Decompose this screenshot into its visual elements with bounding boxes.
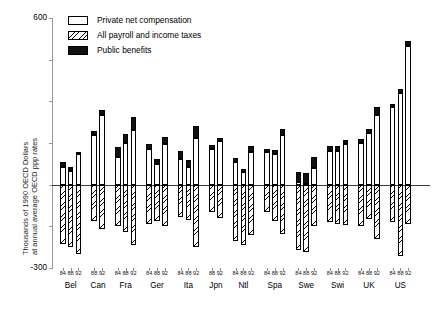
bar-fill-benefits — [358, 139, 364, 143]
bar-fill-benefits — [311, 157, 317, 168]
bar-segment-taxes — [186, 185, 192, 221]
bar-fill-compensation — [398, 93, 404, 185]
bar-fill-taxes — [76, 185, 82, 254]
bar-segment-taxes — [217, 185, 223, 218]
x-axis-year-label: 92 — [405, 271, 411, 277]
bar-fill-taxes — [311, 185, 317, 226]
bar-segment-benefits — [154, 159, 160, 164]
bar-fill-compensation — [280, 135, 286, 184]
bar-fill-benefits — [193, 126, 199, 138]
x-axis-year-label: 92 — [99, 271, 105, 277]
bar-fill-taxes — [91, 185, 97, 221]
bar-fill-benefits — [154, 159, 160, 164]
x-axis-year-label: 84 — [60, 271, 66, 277]
bar-fill-taxes — [123, 185, 129, 232]
x-axis-country-label: Swi — [331, 282, 344, 290]
bar-segment-taxes — [162, 185, 168, 227]
bar-fill-benefits — [272, 150, 278, 153]
bar-segment-compensation — [248, 152, 254, 185]
bar-segment-benefits — [374, 107, 380, 114]
bar-segment-compensation — [272, 154, 278, 185]
bar-segment-compensation — [241, 172, 247, 184]
legend-swatch-taxes-icon — [68, 31, 88, 40]
y-axis-title: Thousands of 1990 OECD Dollars at annual… — [0, 0, 34, 280]
bar-fill-compensation — [91, 135, 97, 184]
bar-fill-benefits — [303, 173, 309, 184]
bar-fill-benefits — [327, 146, 333, 151]
bar-segment-taxes — [248, 185, 254, 235]
bar-fill-compensation — [154, 164, 160, 185]
bar-fill-benefits — [146, 144, 152, 149]
bar-segment-benefits — [99, 110, 105, 116]
bar-segment-taxes — [374, 185, 380, 239]
bar-segment-taxes — [91, 185, 97, 221]
x-axis-year-label: 88 — [272, 271, 278, 277]
bar-segment-compensation — [358, 143, 364, 185]
bar-fill-benefits — [209, 145, 215, 149]
bar-fill-taxes — [264, 185, 270, 213]
bar-fill-taxes — [209, 185, 215, 213]
x-axis-year-label: 84 — [389, 271, 395, 277]
x-axis-year-label: 88 — [303, 271, 309, 277]
bar-segment-compensation — [186, 167, 192, 185]
x-axis-country-label: US — [395, 282, 406, 290]
bar-segment-taxes — [272, 185, 278, 221]
bar-segment-benefits — [327, 146, 333, 151]
bar-fill-compensation — [99, 115, 105, 184]
bar-segment-taxes — [280, 185, 286, 234]
bar-segment-benefits — [60, 162, 66, 167]
bar-fill-benefits — [115, 147, 121, 157]
bar-segment-compensation — [76, 154, 82, 185]
bar-segment-compensation — [193, 138, 199, 185]
bar-segment-compensation — [264, 152, 270, 184]
bar-segment-benefits — [123, 134, 129, 143]
legend-swatch-compensation-icon — [68, 16, 88, 25]
bar-segment-compensation — [123, 143, 129, 185]
bar-fill-taxes — [272, 185, 278, 221]
x-axis-year-label: 84 — [146, 271, 152, 277]
bar-fill-taxes — [296, 185, 302, 251]
bar-fill-benefits — [91, 131, 97, 135]
bar-segment-benefits — [272, 150, 278, 153]
bar-fill-taxes — [193, 185, 199, 248]
bar-fill-compensation — [311, 168, 317, 185]
x-axis-year-label: 92 — [217, 271, 223, 277]
bar-segment-compensation — [178, 159, 184, 185]
x-axis-year-label: 92 — [130, 271, 136, 277]
bar-fill-benefits — [186, 160, 192, 167]
x-axis-country-label: Bel — [65, 282, 77, 290]
x-axis-country-label: Ita — [184, 282, 193, 290]
bar-fill-compensation — [366, 133, 372, 185]
x-axis-country-label: Ger — [150, 282, 164, 290]
bar-fill-taxes — [68, 185, 74, 248]
bar-fill-compensation — [115, 157, 121, 185]
bar-segment-compensation — [68, 171, 74, 184]
bar-fill-benefits — [398, 89, 404, 93]
bar-fill-taxes — [186, 185, 192, 221]
bar-fill-benefits — [405, 41, 411, 45]
bar-segment-taxes — [123, 185, 129, 232]
bar-fill-taxes — [154, 185, 160, 222]
bar-fill-benefits — [76, 152, 82, 154]
bar-segment-taxes — [178, 185, 184, 218]
bar-fill-taxes — [241, 185, 247, 246]
bar-fill-compensation — [193, 138, 199, 185]
chart-container: Thousands of 1990 OECD Dollars at annual… — [0, 0, 438, 310]
bar-fill-taxes — [217, 185, 223, 218]
x-axis-year-label: 92 — [374, 271, 380, 277]
bar-segment-taxes — [154, 185, 160, 222]
bar-segment-taxes — [405, 185, 411, 224]
bar-fill-taxes — [374, 185, 380, 239]
bar-fill-taxes — [233, 185, 239, 242]
x-axis-year-label: 88 — [122, 271, 128, 277]
bar-segment-benefits — [264, 149, 270, 152]
bar-segment-compensation — [99, 115, 105, 184]
x-axis-year-label: 84 — [232, 271, 238, 277]
x-axis-year-label: 88 — [397, 271, 403, 277]
legend-label-compensation: Private net compensation — [97, 16, 192, 24]
bar-segment-benefits — [311, 157, 317, 168]
bar-segment-benefits — [358, 139, 364, 143]
bar-segment-taxes — [343, 185, 349, 226]
bar-fill-compensation — [303, 184, 309, 186]
bar-segment-taxes — [358, 185, 364, 227]
